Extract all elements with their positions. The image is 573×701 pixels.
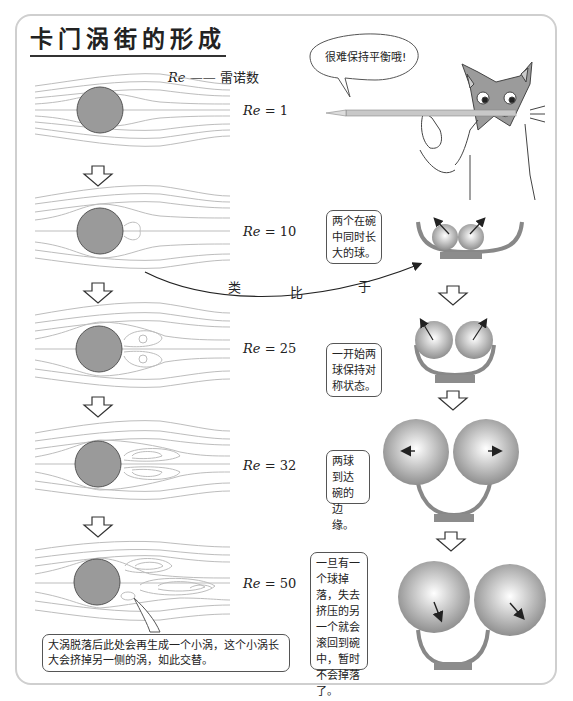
down-arrow-icon <box>439 391 467 410</box>
analogy-label-char-3: 于 <box>358 276 371 295</box>
note-symmetric: 一开始两球保持对称状态。 <box>326 343 382 397</box>
cylinder-re25 <box>76 326 122 372</box>
analogy-label-char-1: 类 <box>228 277 241 296</box>
pencil-icon <box>326 110 516 116</box>
down-arrow-icon <box>84 283 112 303</box>
cat-speech-text: 很难保持平衡哦! <box>325 48 406 64</box>
cylinder-re10 <box>77 208 123 254</box>
bowl-stage-3 <box>383 419 519 522</box>
re-label-stage-1: Re = 1 <box>243 103 288 118</box>
note-ball-growth: 两个在碗中同时长大的球。 <box>326 210 382 264</box>
analogy-curve-arrow <box>145 264 420 297</box>
re-label-stage-3: Re = 25 <box>243 341 296 356</box>
cylinder-re1 <box>77 87 123 133</box>
flow-stage-re1 <box>35 74 230 147</box>
down-arrow-icon <box>437 532 465 551</box>
bowl-stage-4 <box>398 561 546 670</box>
note-vortex-shedding: 大涡脱落后此处会再生成一个小涡，这个小涡长大会挤掉另一侧的涡，如此交替。 <box>42 634 290 672</box>
analogy-label-char-2: 比 <box>290 282 303 301</box>
down-arrow-icon <box>84 166 112 186</box>
flow-stage-re32 <box>35 421 230 500</box>
cat-illustration <box>420 62 545 200</box>
flow-stage-re25 <box>35 303 230 388</box>
down-arrow-icon <box>84 397 112 417</box>
down-arrow-icon <box>439 286 467 305</box>
cylinder-re32 <box>75 441 121 487</box>
re-label-stage-4: Re = 32 <box>243 458 296 473</box>
note-bowl-edge: 两球到达碗的边缘。 <box>326 450 370 504</box>
speech-bubble <box>310 34 418 97</box>
flow-stage-re10 <box>35 186 230 269</box>
note-ball-drops: 一旦有一个球掉落，失去挤压的另一个就会滚回到碗中，暂时不会掉落了。 <box>310 552 368 670</box>
cylinder-re50 <box>74 559 120 605</box>
re-label-stage-2: Re = 10 <box>243 224 296 239</box>
bowl-stage-1 <box>418 219 522 259</box>
down-arrow-icon <box>84 517 112 537</box>
bowl-stage-2 <box>415 320 494 383</box>
flow-stage-re50 <box>35 541 230 620</box>
re-label-stage-5: Re = 50 <box>243 576 296 591</box>
